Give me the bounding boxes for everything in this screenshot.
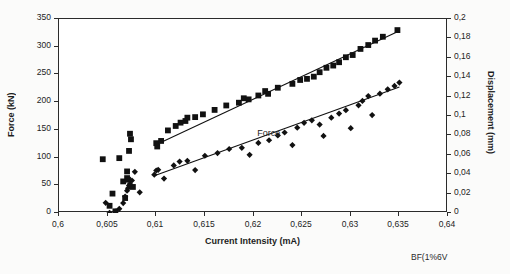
x-tick-2: [155, 212, 156, 216]
y-right-tick-label-0: 0: [454, 207, 494, 216]
x-tick-label-2: 0,61: [134, 220, 176, 229]
y-left-tick-label-1: 50: [18, 179, 51, 188]
x-tick-label-3: 0,615: [183, 220, 225, 229]
y-left-tick-label-0: 0: [18, 207, 51, 216]
x-tick-label-5: 0,625: [280, 220, 322, 229]
y-left-tick-6: [54, 46, 58, 47]
y-right-tick-5: [447, 115, 451, 116]
y-left-tick-4: [54, 101, 58, 102]
plot-area: [58, 18, 447, 212]
y-right-tick-label-10: 0,2: [454, 13, 494, 22]
x-tick-label-4: 0,62: [232, 220, 274, 229]
y-left-tick-3: [54, 129, 58, 130]
y-left-tick-label-4: 200: [18, 96, 51, 105]
x-tick-label-1: 0,605: [86, 220, 128, 229]
x-tick-3: [204, 212, 205, 216]
y-axis-left-title: Force (kN): [4, 62, 18, 168]
y-right-tick-3: [447, 154, 451, 155]
chart-figure: 05010015020025030035000,020,040,060,080,…: [0, 0, 510, 274]
y-left-tick-label-7: 350: [18, 13, 51, 22]
y-right-tick-8: [447, 57, 451, 58]
y-right-tick-label-1: 0,02: [454, 188, 494, 197]
y-left-tick-7: [54, 18, 58, 19]
y-left-tick-1: [54, 184, 58, 185]
x-tick-label-0: 0,6: [37, 220, 79, 229]
x-tick-7: [398, 212, 399, 216]
y-right-tick-label-9: 0,18: [454, 32, 494, 41]
y-right-tick-10: [447, 18, 451, 19]
y-axis-right-title: Displacement (mm): [484, 48, 498, 178]
y-left-tick-2: [54, 157, 58, 158]
y-right-tick-9: [447, 37, 451, 38]
y-right-tick-2: [447, 173, 451, 174]
x-axis-title: Current Intensity (mA): [58, 236, 447, 246]
y-left-tick-label-2: 100: [18, 152, 51, 161]
x-tick-label-8: 0,64: [426, 220, 468, 229]
figure-caption: BF(1%6V: [411, 252, 447, 262]
x-tick-label-7: 0,635: [377, 220, 419, 229]
y-right-tick-4: [447, 134, 451, 135]
y-left-tick-label-5: 250: [18, 68, 51, 77]
x-tick-5: [301, 212, 302, 216]
y-left-tick-5: [54, 73, 58, 74]
x-tick-1: [107, 212, 108, 216]
y-right-tick-1: [447, 193, 451, 194]
y-left-tick-label-6: 300: [18, 41, 51, 50]
x-tick-0: [58, 212, 59, 216]
x-tick-6: [350, 212, 351, 216]
series-annotation-force: Force: [257, 128, 280, 138]
x-tick-4: [253, 212, 254, 216]
y-left-tick-label-3: 150: [18, 124, 51, 133]
x-tick-label-6: 0,63: [329, 220, 371, 229]
x-tick-8: [447, 212, 448, 216]
y-right-tick-7: [447, 76, 451, 77]
plot-canvas: [59, 19, 448, 213]
y-right-tick-6: [447, 96, 451, 97]
